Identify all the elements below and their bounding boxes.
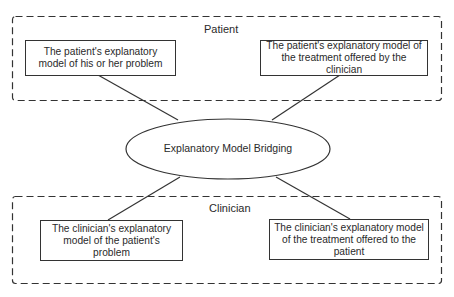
node-text: The patient's explanatory model of his o… [30,46,171,70]
patient-problem-model-box: The patient's explanatory model of his o… [25,40,176,76]
patient-group-label: Patient [204,23,238,35]
connector-patient-treatment [272,75,340,120]
node-text: The patient's explanatory model of the t… [265,40,423,76]
connector-clinician-problem [108,177,180,220]
clinician-problem-model-box: The clinician's explanatory model of the… [40,220,183,261]
center-label: Explanatory Model Bridging [140,142,316,154]
connector-patient-problem [98,75,178,120]
node-text: The clinician's explanatory model of the… [274,222,424,258]
patient-treatment-model-box: The patient's explanatory model of the t… [260,40,428,76]
clinician-treatment-model-box: The clinician's explanatory model of the… [269,219,429,260]
clinician-group-label: Clinician [209,202,251,214]
connector-clinician-treatment [276,177,350,219]
node-text: The clinician's explanatory model of the… [45,223,178,259]
